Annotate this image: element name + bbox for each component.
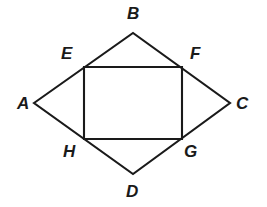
figure-canvas — [0, 0, 267, 207]
vertex-label-h: H — [63, 143, 75, 160]
vertex-label-c: C — [236, 95, 248, 112]
vertex-label-a: A — [17, 95, 29, 112]
vertex-label-d: D — [126, 183, 138, 200]
geometry-figure: A B C D E F G H — [0, 0, 267, 207]
vertex-label-b: B — [127, 5, 139, 22]
vertex-label-f: F — [190, 45, 200, 62]
vertex-label-g: G — [184, 143, 197, 160]
rectangle-efgh — [84, 67, 182, 139]
vertex-label-e: E — [61, 45, 72, 62]
